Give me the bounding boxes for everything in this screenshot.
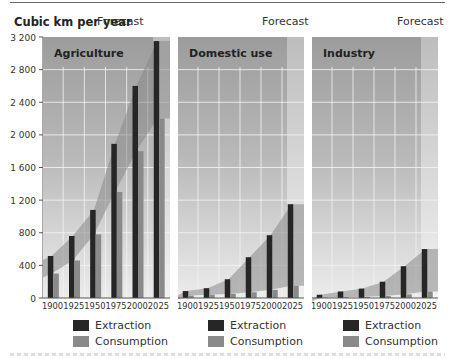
extraction-swatch [343, 320, 359, 331]
bar-extraction [359, 289, 365, 298]
legend-extraction: Extraction [230, 319, 286, 332]
x-tick-label: 1950 [219, 301, 240, 311]
y-tick-label: 2 000 [10, 130, 36, 140]
x-tick-label: 1925 [198, 301, 219, 311]
bar-extraction [154, 41, 160, 298]
bar-extraction [183, 291, 189, 298]
x-tick-label: 1975 [106, 301, 127, 311]
y-tick-label: 1 600 [10, 163, 36, 173]
bar-extraction [288, 204, 294, 298]
x-tick-label: 1950 [84, 301, 105, 311]
bar-extraction [225, 279, 231, 298]
bar-consumption [230, 294, 236, 298]
legend-industry: Extraction Consumption [343, 317, 438, 349]
x-tick-label: 2025 [282, 301, 303, 311]
x-tick-label: 1950 [353, 301, 374, 311]
extraction-swatch [73, 320, 89, 331]
extraction-swatch [208, 320, 224, 331]
bar-consumption [406, 294, 412, 298]
legend-agriculture: Extraction Consumption [73, 317, 168, 349]
x-tick-label: 1900 [177, 301, 198, 311]
consumption-swatch [208, 336, 224, 347]
x-tick-label: 2000 [127, 301, 148, 311]
y-tick-label: 1 200 [10, 196, 36, 206]
x-tick-label: 1900 [311, 301, 332, 311]
chart-plot-area: 04008001 2001 6002 0002 4002 8003 200Agr… [0, 0, 455, 359]
x-tick-label: 2000 [395, 301, 416, 311]
bar-extraction [422, 249, 428, 298]
panel-title: Industry [323, 47, 375, 60]
bar-extraction [48, 256, 54, 298]
panel-agriculture: Agriculture190019251950197520002025 [42, 37, 170, 311]
x-tick-label: 2000 [261, 301, 282, 311]
bar-extraction [90, 210, 96, 298]
bar-consumption [272, 290, 278, 298]
x-tick-label: 1925 [63, 301, 84, 311]
x-tick-label: 1975 [374, 301, 395, 311]
bar-consumption [96, 234, 102, 298]
bar-consumption [427, 291, 433, 298]
x-tick-label: 1925 [332, 301, 353, 311]
x-tick-label: 2025 [148, 301, 169, 311]
bar-extraction [69, 236, 75, 298]
bar-consumption [251, 292, 257, 298]
x-tick-label: 1975 [240, 301, 261, 311]
bar-consumption [53, 274, 59, 298]
cropped-caption-line [10, 353, 445, 356]
bar-consumption [159, 119, 165, 298]
bar-extraction [380, 282, 386, 298]
bar-extraction [267, 235, 273, 298]
panel-domestic-use: Domestic use190019251950197520002025 [177, 37, 304, 311]
panel-title: Domestic use [189, 47, 272, 60]
bar-consumption [75, 260, 81, 298]
y-tick-label: 0 [30, 294, 36, 304]
bar-consumption [117, 192, 123, 298]
bar-extraction [204, 288, 210, 298]
bar-extraction [111, 144, 117, 298]
legend-consumption: Consumption [95, 335, 168, 348]
panel-industry: Industry190019251950197520002025 [311, 37, 438, 311]
legend-consumption: Consumption [230, 335, 303, 348]
legend-domestic: Extraction Consumption [208, 317, 303, 349]
y-tick-label: 3 200 [10, 33, 36, 43]
legend-extraction: Extraction [365, 319, 421, 332]
y-tick-label: 2 800 [10, 65, 36, 75]
consumption-swatch [73, 336, 89, 347]
legend-consumption: Consumption [365, 335, 438, 348]
y-tick-label: 400 [19, 261, 36, 271]
bar-extraction [401, 266, 407, 298]
legend-extraction: Extraction [95, 319, 151, 332]
bar-extraction [338, 291, 344, 298]
panel-title: Agriculture [54, 47, 124, 60]
y-tick-label: 800 [19, 228, 36, 238]
bar-extraction [246, 257, 252, 298]
chart-figure: Cubic km per year Forecast Forecast Fore… [0, 0, 455, 359]
y-tick-label: 2 400 [10, 98, 36, 108]
bar-consumption [138, 151, 144, 298]
x-tick-label: 1900 [42, 301, 63, 311]
consumption-swatch [343, 336, 359, 347]
bar-consumption [293, 286, 299, 298]
bar-extraction [133, 86, 139, 298]
x-tick-label: 2025 [416, 301, 437, 311]
